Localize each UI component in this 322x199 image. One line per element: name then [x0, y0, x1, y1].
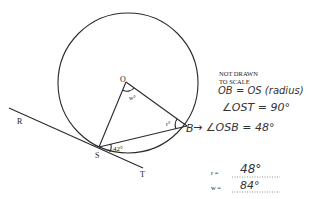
answer-r-label: r =: [211, 169, 219, 176]
label-t: T: [140, 170, 145, 179]
label-r: R: [17, 117, 23, 126]
angle-label-r: r°: [166, 121, 171, 127]
working-line-1: OB = OS (radius): [218, 85, 304, 96]
angle-arc-42: [110, 144, 111, 152]
radius-os: [99, 82, 126, 147]
radius-ob: [126, 82, 187, 126]
angle-label-w: w°: [129, 95, 136, 101]
angle-label-42: 42°: [113, 145, 123, 153]
angle-arc-r: [175, 119, 177, 129]
answer-w-value: 84°: [240, 179, 260, 192]
answer-r-value: 48°: [240, 162, 261, 176]
note-not-drawn: NOT DRAWN: [219, 70, 258, 77]
geometry-diagram: O S R T B w° r° 42° NOT DRAWN TO SCALE O…: [0, 0, 322, 199]
diagram-canvas: O S R T B w° r° 42° NOT DRAWN TO SCALE O…: [0, 0, 322, 199]
note-to-scale: TO SCALE: [219, 78, 250, 85]
working-line-2: ∠OST = 90°: [222, 101, 290, 114]
label-o: O: [120, 75, 126, 84]
working-line-3: → ∠OSB = 48°: [193, 121, 274, 134]
tangent-line-rt: [9, 108, 143, 168]
answer-w-label: w =: [211, 184, 221, 191]
label-s: S: [95, 151, 99, 160]
angle-arc-w: [123, 88, 135, 91]
